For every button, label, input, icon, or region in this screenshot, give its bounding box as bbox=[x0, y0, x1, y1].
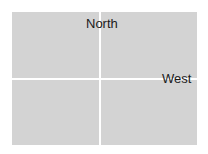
north-label: North bbox=[86, 17, 118, 31]
west-label: West bbox=[162, 72, 191, 86]
panel-bottom-left bbox=[12, 80, 99, 145]
panel-bottom-right bbox=[101, 80, 197, 145]
